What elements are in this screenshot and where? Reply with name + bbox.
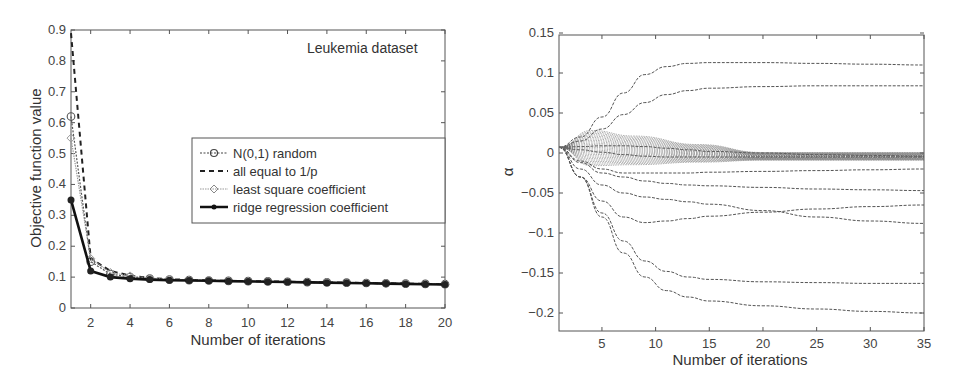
x-tick-label: 16 (359, 315, 373, 330)
legend-label: ridge regression coefficient (233, 200, 389, 215)
y-tick-label: 0.3 (48, 207, 66, 222)
x-tick-label: 25 (809, 336, 823, 351)
y-tick-label: 0.9 (48, 22, 66, 37)
x-tick-label: 5 (598, 336, 605, 351)
y-tick-label: −0.05 (521, 185, 554, 200)
y-tick-label: 0 (547, 145, 554, 160)
y-tick-label: −0.15 (521, 265, 554, 280)
coefficient-path-cluster (559, 133, 924, 153)
legend: N(0,1) random all equal to 1/p least squ… (192, 138, 445, 223)
legend-label: all equal to 1/p (233, 164, 318, 179)
objective-function-chart: 246810121416182000.10.20.30.40.50.60.70.… (27, 22, 452, 348)
x-tick-label: 15 (702, 336, 716, 351)
left-x-axis-label: Number of iterations (190, 331, 325, 348)
y-tick-label: 0.1 (536, 65, 554, 80)
y-tick-label: 0.15 (529, 25, 554, 40)
right-y-axis-label: α (499, 167, 516, 176)
x-tick-label: 30 (863, 336, 877, 351)
dataset-annotation: Leukemia dataset (307, 40, 418, 56)
x-tick-label: 20 (438, 315, 452, 330)
y-tick-label: 0.6 (48, 115, 66, 130)
x-tick-label: 10 (648, 336, 662, 351)
x-tick-label: 12 (280, 315, 294, 330)
left-y-axis-label: Objective function value (27, 88, 44, 247)
coefficient-path (559, 147, 924, 283)
y-tick-label: −0.2 (528, 305, 554, 320)
y-tick-label: 0.7 (48, 84, 66, 99)
alpha-coefficients-chart: 51015202530350.150.10.050−0.05−0.1−0.15−… (499, 25, 931, 368)
x-tick-label: 35 (917, 336, 931, 351)
coefficient-path-cluster (559, 135, 924, 154)
y-tick-label: 0.2 (48, 238, 66, 253)
x-tick-label: 20 (756, 336, 770, 351)
right-plot-series (559, 63, 924, 313)
legend-label: least square coefficient (233, 182, 366, 197)
y-tick-label: 0.5 (48, 146, 66, 161)
right-x-axis-label: Number of iterations (672, 351, 807, 368)
x-tick-label: 14 (320, 315, 334, 330)
y-tick-label: 0 (59, 300, 66, 315)
coefficient-path (559, 63, 924, 148)
x-tick-label: 4 (126, 315, 133, 330)
y-tick-label: −0.1 (528, 225, 554, 240)
x-tick-label: 10 (241, 315, 255, 330)
x-tick-label: 6 (166, 315, 173, 330)
y-tick-label: 0.8 (48, 53, 66, 68)
star-marker-icon (212, 205, 217, 210)
coefficient-path-cluster (559, 131, 924, 153)
x-tick-label: 18 (398, 315, 412, 330)
x-tick-label: 8 (205, 315, 212, 330)
y-tick-label: 0.4 (48, 176, 66, 191)
right-plot-frame (559, 35, 924, 331)
y-tick-label: 0.1 (48, 269, 66, 284)
x-tick-label: 2 (87, 315, 94, 330)
y-tick-label: 0.05 (529, 105, 554, 120)
coefficient-path (559, 86, 924, 148)
figure-canvas: 246810121416182000.10.20.30.40.50.60.70.… (0, 0, 961, 379)
legend-label: N(0,1) random (233, 146, 317, 161)
